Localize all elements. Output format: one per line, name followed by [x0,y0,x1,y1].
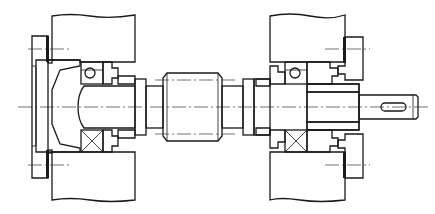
right-bearing-ball [285,62,307,84]
left-bearing-roller [81,130,103,152]
left-bearing-ball [81,62,103,84]
right-seal-gasket [343,37,346,178]
right-bearing-roller [285,130,307,152]
left-housing-wall [52,15,135,202]
mechanical-drawing [0,0,435,214]
